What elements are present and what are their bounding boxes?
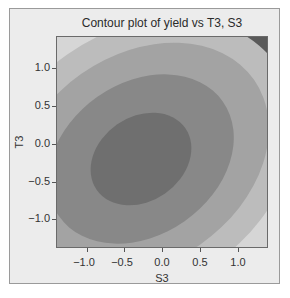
contour-plot-area xyxy=(56,36,268,248)
ytick-mark xyxy=(52,106,56,107)
x-axis-label: S3 xyxy=(56,272,268,284)
xtick-mark xyxy=(87,248,88,252)
xtick-mark xyxy=(200,248,201,252)
ytick-label: 1.0 xyxy=(10,61,50,73)
ytick-label: −0.5 xyxy=(10,175,50,187)
ytick-mark xyxy=(52,219,56,220)
xtick-label: 0.5 xyxy=(180,256,220,268)
chart-title: Contour plot of yield vs T3, S3 xyxy=(56,16,268,30)
xtick-label: 1.0 xyxy=(218,256,258,268)
xtick-mark xyxy=(238,248,239,252)
ytick-mark xyxy=(52,182,56,183)
ytick-mark xyxy=(52,68,56,69)
xtick-mark xyxy=(124,248,125,252)
contour-svg xyxy=(57,37,268,248)
ytick-label: −1.0 xyxy=(10,212,50,224)
y-axis-label: T3 xyxy=(13,132,25,152)
ytick-label: 0.5 xyxy=(10,99,50,111)
ytick-mark xyxy=(52,144,56,145)
xtick-label: 0.0 xyxy=(142,256,182,268)
xtick-label: −0.5 xyxy=(102,256,142,268)
xtick-label: −1.0 xyxy=(64,256,104,268)
xtick-mark xyxy=(162,248,163,252)
